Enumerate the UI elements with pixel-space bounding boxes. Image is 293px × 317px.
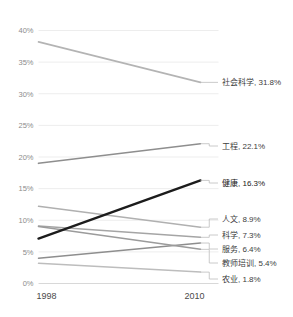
series-end-label-健康[interactable]: 健康, 16.3% (222, 178, 265, 188)
series-end-labels-group: 社会科学, 31.8%工程, 22.1%健康, 16.3%人文, 8.9%科学,… (222, 77, 281, 284)
y-axis-tick-label: 15% (18, 184, 33, 193)
y-axis-tick-label: 35% (18, 58, 33, 67)
series-end-label-教师培训[interactable]: 教师培训, 5.4% (222, 258, 277, 268)
x-axis-year-label-1998: 1998 (36, 291, 56, 301)
leader-line-服务 (201, 243, 219, 249)
series-line-科学[interactable] (39, 226, 201, 237)
slope-chart-canvas: 40%35%30%25%20%15%10%5%0% 社会科学, 31.8%工程,… (0, 0, 293, 317)
series-end-label-人文[interactable]: 人文, 8.9% (222, 214, 261, 224)
series-end-label-社会科学[interactable]: 社会科学, 31.8% (222, 77, 281, 87)
leader-line-健康 (201, 180, 219, 183)
x-axis-year-labels: 19982010 (36, 291, 204, 301)
gridlines-group (39, 31, 219, 284)
y-axis-tick-label: 30% (18, 90, 33, 99)
series-end-label-农业[interactable]: 农业, 1.8% (222, 274, 261, 284)
x-axis-year-label-2010: 2010 (184, 291, 204, 301)
series-line-农业[interactable] (39, 263, 201, 272)
series-end-label-工程[interactable]: 工程, 22.1% (222, 142, 265, 151)
series-leader-lines-group (201, 82, 219, 279)
y-axis-tick-label: 25% (18, 121, 33, 130)
y-axis-tick-labels: 40%35%30%25%20%15%10%5%0% (18, 26, 33, 288)
y-axis-tick-label: 5% (23, 248, 34, 257)
series-end-label-科学[interactable]: 科学, 7.3% (222, 230, 261, 240)
series-line-工程[interactable] (39, 144, 201, 164)
y-axis-tick-label: 40% (18, 26, 33, 35)
leader-line-科学 (201, 235, 219, 237)
series-end-label-服务[interactable]: 服务, 6.4% (222, 244, 261, 254)
leader-line-农业 (201, 272, 219, 279)
leader-line-工程 (201, 144, 219, 146)
y-axis-tick-label: 20% (18, 153, 33, 162)
slope-chart: 40%35%30%25%20%15%10%5%0% 社会科学, 31.8%工程,… (0, 0, 293, 317)
y-axis-tick-label: 10% (18, 216, 33, 225)
y-axis-tick-label: 0% (23, 279, 34, 288)
